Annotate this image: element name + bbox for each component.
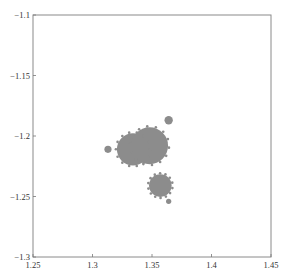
bottom-satellite bbox=[166, 199, 171, 204]
fractal-bud bbox=[165, 155, 168, 158]
fractal-bud bbox=[135, 131, 138, 134]
fractal-bud bbox=[135, 165, 138, 168]
fractal-bud bbox=[150, 192, 153, 195]
lower-bulb bbox=[149, 174, 172, 197]
fractal-bud bbox=[159, 172, 162, 175]
fractal-bud bbox=[154, 195, 157, 198]
fractal-bud bbox=[171, 187, 174, 190]
fractal-bud bbox=[138, 128, 141, 131]
fractal-bud bbox=[167, 138, 170, 141]
x-tick-label: 1.35 bbox=[145, 260, 160, 270]
y-tick-label: −1.1 bbox=[15, 10, 30, 20]
fractal-bud bbox=[130, 151, 133, 154]
fractal-bud bbox=[159, 161, 162, 164]
x-tick-label: 1.45 bbox=[264, 260, 279, 270]
y-tick-label: −1.25 bbox=[10, 192, 30, 202]
fractal-bud bbox=[147, 155, 150, 158]
y-tick-label: −1.3 bbox=[15, 252, 30, 262]
fractal-bud bbox=[128, 165, 131, 168]
left-satellite bbox=[104, 146, 111, 153]
upper-right-satellite bbox=[164, 116, 172, 124]
fractal-bud bbox=[116, 155, 119, 158]
fractal-bud bbox=[115, 148, 118, 151]
fractal-bud bbox=[128, 131, 131, 134]
fractal-bud bbox=[146, 125, 149, 128]
fractal-bud bbox=[121, 135, 124, 138]
fractal-bud bbox=[121, 161, 124, 164]
fractal-bud bbox=[147, 187, 150, 190]
fractal-bud bbox=[151, 164, 154, 167]
fractal-bud bbox=[147, 141, 150, 144]
fractal-bud bbox=[149, 148, 152, 151]
fractal-bud bbox=[165, 195, 168, 198]
fractal-bud bbox=[168, 146, 171, 149]
fractal-bud bbox=[171, 181, 174, 184]
fractal-bud bbox=[162, 130, 165, 133]
fractal-bud bbox=[168, 176, 171, 179]
fractal-bud bbox=[169, 192, 172, 195]
x-tick-label: 1.4 bbox=[206, 260, 217, 270]
fractal-plot: 1.251.31.351.41.45 −1.1−1.15−1.2−1.25−1.… bbox=[0, 0, 286, 279]
fractal-bud bbox=[159, 197, 162, 200]
fractal-bud bbox=[142, 135, 145, 138]
fractal-bud bbox=[149, 177, 152, 180]
y-tick-label: −1.2 bbox=[15, 131, 30, 141]
fractal-bud bbox=[132, 134, 135, 137]
y-tick-label: −1.15 bbox=[10, 71, 30, 81]
fractal-bud bbox=[116, 141, 119, 144]
fractal-bud bbox=[155, 126, 158, 129]
fractal-bud bbox=[142, 163, 145, 166]
fractal-bud bbox=[135, 158, 138, 161]
fractal-bud bbox=[164, 173, 167, 176]
fractal-bud bbox=[129, 142, 132, 145]
x-tick-label: 1.3 bbox=[87, 260, 98, 270]
fractal-bud bbox=[153, 173, 156, 176]
fractal-bud bbox=[147, 182, 150, 185]
